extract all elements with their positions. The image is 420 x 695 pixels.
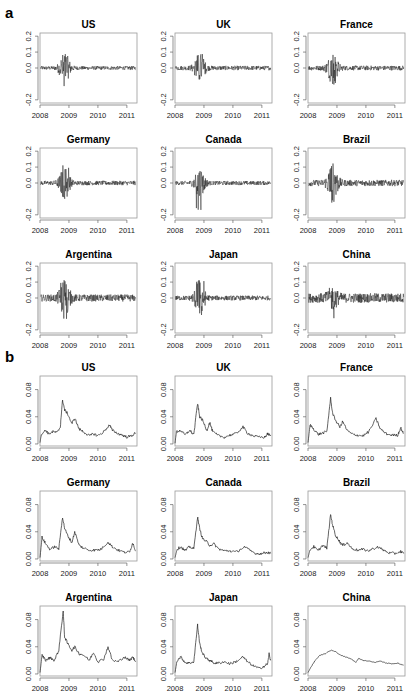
x-tick-label: 2011 (119, 569, 135, 578)
figure-canvas: US2008200920102011-0.20.00.10.2UK2008200… (0, 0, 420, 695)
y-tick-label: 0.00 (292, 667, 301, 682)
subplot-brazil: Brazil20082009201020110.000.040.08 (292, 477, 405, 578)
x-tick-label: 2009 (196, 569, 213, 578)
x-tick-label: 2010 (358, 454, 375, 463)
x-tick-label: 2009 (61, 569, 78, 578)
subplot-title: China (343, 249, 371, 260)
x-tick-label: 2008 (300, 111, 317, 120)
y-tick-label: -0.2 (159, 93, 168, 106)
subplot-us: US20082009201020110.000.040.08 (24, 362, 137, 463)
subplot-title: Germany (67, 134, 111, 145)
y-tick-label: 0.2 (159, 146, 168, 156)
x-tick-label: 2011 (119, 684, 135, 693)
y-tick-label: 0.2 (292, 146, 301, 156)
subplot-japan: Japan2008200920102011-0.20.00.10.2 (159, 249, 272, 350)
x-tick-label: 2011 (387, 684, 403, 693)
y-tick-label: -0.2 (24, 208, 33, 221)
x-tick-label: 2009 (329, 569, 346, 578)
x-tick-label: 2009 (196, 226, 213, 235)
x-tick-label: 2008 (167, 341, 184, 350)
series-line (41, 165, 136, 198)
subplot-us: US2008200920102011-0.20.00.10.2 (24, 19, 137, 120)
x-tick-label: 2008 (167, 111, 184, 120)
y-tick-label: 0.04 (24, 524, 33, 539)
x-tick-label: 2008 (300, 454, 317, 463)
x-tick-label: 2009 (196, 454, 213, 463)
y-tick-label: 0.08 (24, 612, 33, 627)
y-tick-label: 0.00 (24, 437, 33, 452)
subplot-uk: UK20082009201020110.000.040.08 (159, 362, 272, 463)
y-tick-label: 0.0 (292, 293, 301, 303)
y-tick-label: 0.00 (159, 437, 168, 452)
series-line (176, 171, 271, 210)
y-tick-label: 0.1 (159, 47, 168, 57)
y-tick-label: 0.00 (292, 552, 301, 567)
x-tick-label: 2010 (225, 226, 242, 235)
x-tick-label: 2009 (196, 341, 213, 350)
subplot-title: Brazil (343, 134, 370, 145)
x-tick-label: 2011 (387, 569, 403, 578)
y-tick-label: 0.0 (159, 63, 168, 73)
y-tick-label: 0.08 (159, 382, 168, 397)
x-tick-label: 2009 (61, 454, 78, 463)
x-tick-label: 2010 (358, 569, 375, 578)
plot-frame (40, 606, 137, 676)
y-tick-label: 0.1 (292, 47, 301, 57)
y-tick-label: -0.2 (292, 208, 301, 221)
x-tick-label: 2009 (329, 684, 346, 693)
x-tick-label: 2010 (225, 111, 242, 120)
y-tick-label: 0.04 (24, 409, 33, 424)
y-tick-label: 0.04 (159, 524, 168, 539)
x-tick-label: 2010 (225, 454, 242, 463)
subplot-japan: Japan20082009201020110.000.040.08 (159, 592, 272, 693)
y-tick-label: 0.0 (292, 178, 301, 188)
x-tick-label: 2008 (300, 341, 317, 350)
x-tick-label: 2011 (387, 111, 403, 120)
y-tick-label: 0.04 (159, 409, 168, 424)
series-line (309, 55, 404, 85)
y-tick-label: -0.2 (292, 323, 301, 336)
subplot-canada: Canada2008200920102011-0.20.00.10.2 (159, 134, 272, 235)
plot-frame (308, 606, 405, 676)
subplot-china: China20082009201020110.000.040.08 (292, 592, 405, 693)
x-tick-label: 2009 (61, 341, 78, 350)
y-tick-label: 0.08 (292, 382, 301, 397)
y-tick-label: 0.1 (24, 277, 33, 287)
x-tick-label: 2008 (32, 454, 49, 463)
subplot-germany: Germany2008200920102011-0.20.00.10.2 (24, 134, 137, 235)
y-tick-label: 0.04 (24, 639, 33, 654)
y-tick-label: 0.00 (159, 667, 168, 682)
y-tick-label: 0.04 (292, 524, 301, 539)
x-tick-label: 2010 (358, 111, 375, 120)
y-tick-label: 0.2 (24, 146, 33, 156)
x-tick-label: 2011 (119, 454, 135, 463)
subplot-uk: UK2008200920102011-0.20.00.10.2 (159, 19, 272, 120)
y-tick-label: -0.2 (159, 323, 168, 336)
x-tick-label: 2008 (167, 226, 184, 235)
y-tick-label: 0.2 (159, 31, 168, 41)
y-tick-label: 0.1 (159, 277, 168, 287)
series-line (40, 611, 136, 673)
subplot-argentina: Argentina2008200920102011-0.20.00.10.2 (24, 249, 137, 350)
x-tick-label: 2009 (196, 111, 213, 120)
x-tick-label: 2010 (90, 454, 107, 463)
x-tick-label: 2010 (358, 226, 375, 235)
y-tick-label: 0.08 (292, 612, 301, 627)
x-tick-label: 2010 (225, 684, 242, 693)
series-line (41, 280, 136, 319)
subplot-germany: Germany20082009201020110.000.040.08 (24, 477, 137, 578)
y-tick-label: -0.2 (24, 93, 33, 106)
x-tick-label: 2010 (90, 341, 107, 350)
subplot-title: Japan (209, 592, 238, 603)
x-tick-label: 2010 (90, 226, 107, 235)
y-tick-label: 0.04 (292, 639, 301, 654)
series-line (308, 650, 404, 672)
subplot-title: US (82, 19, 96, 30)
x-tick-label: 2011 (119, 341, 135, 350)
series-line (176, 280, 271, 315)
x-tick-label: 2008 (167, 454, 184, 463)
x-tick-label: 2009 (196, 684, 213, 693)
subplot-title: UK (216, 19, 231, 30)
x-tick-label: 2008 (32, 341, 49, 350)
y-tick-label: 0.0 (24, 293, 33, 303)
